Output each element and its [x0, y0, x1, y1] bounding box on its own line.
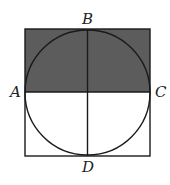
diagram-canvas: B A C D: [0, 0, 170, 185]
geometry-figure: B A C D: [0, 0, 170, 185]
point-label-b: B: [81, 10, 93, 28]
point-label-d: D: [81, 158, 94, 176]
point-label-c: C: [155, 83, 167, 101]
point-label-a: A: [8, 83, 21, 101]
